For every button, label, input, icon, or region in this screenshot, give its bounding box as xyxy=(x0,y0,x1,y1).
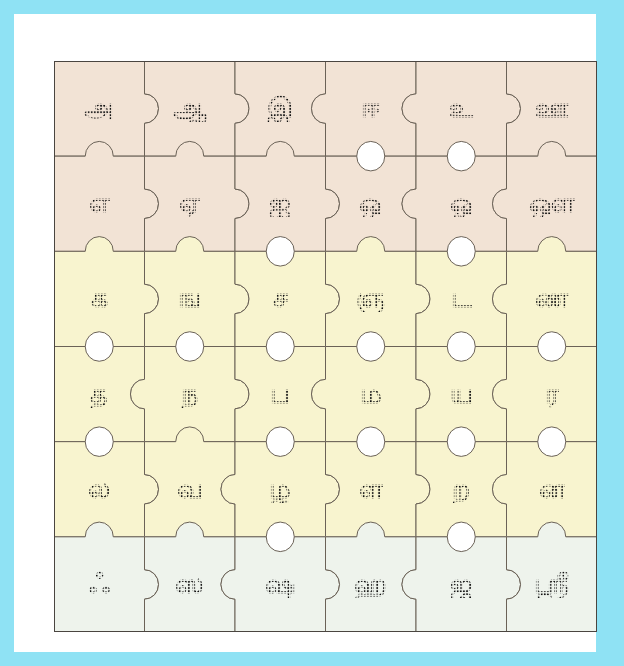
letter-glyph: த xyxy=(90,381,108,408)
letter-au: ஔ xyxy=(507,156,598,251)
letter-glyph: ஊ xyxy=(535,95,569,122)
letter-glyph: ம xyxy=(360,381,382,408)
letter-cha: ச xyxy=(235,251,326,346)
letter-rra: ற xyxy=(416,442,507,537)
letter-uu: ஊ xyxy=(507,61,598,156)
letter-ii: ஈ xyxy=(326,61,417,156)
letter-lla: ள xyxy=(326,442,417,537)
letter-ee: ஏ xyxy=(145,156,236,251)
letter-glyph: ல xyxy=(88,476,110,503)
letter-glyph: க xyxy=(91,285,108,312)
letter-e: எ xyxy=(54,156,145,251)
letter-a: அ xyxy=(54,61,145,156)
letter-glyph: ன xyxy=(539,476,565,503)
letter-sa: ஸ xyxy=(145,537,236,632)
letter-tha: த xyxy=(54,347,145,442)
letter-glyph: ஔ xyxy=(529,190,575,217)
letter-glyph: ண xyxy=(535,285,569,312)
letter-glyph: அ xyxy=(84,95,114,122)
letter-nha: ந xyxy=(145,347,236,442)
letter-u: உ xyxy=(416,61,507,156)
jigsaw-board[interactable]: அஆஇஈஉஊஎஏஐஒஓஔகஙசஞடணதநபமயரலவழளறனஃஸஷஹஜஶ்ரீ xyxy=(54,61,597,632)
letter-glyph: உ xyxy=(449,95,474,122)
letter-glyph: ப xyxy=(270,381,290,408)
letter-glyph: ஈ xyxy=(361,95,380,122)
letter-nga: ங xyxy=(145,251,236,346)
letter-glyph: ஹ xyxy=(354,571,387,598)
letter-sha: ஷ xyxy=(235,537,326,632)
letter-ai: ஐ xyxy=(235,156,326,251)
letter-nya: ஞ xyxy=(326,251,417,346)
letter-glyph: ழ xyxy=(269,476,291,503)
letter-glyph: ஸ xyxy=(175,571,204,598)
letter-glyph: ஷ xyxy=(265,571,295,598)
letter-glyph: இ xyxy=(267,95,293,122)
letter-glyph: எ xyxy=(89,190,110,217)
letter-glyph-layer: அஆஇஈஉஊஎஏஐஒஓஔகஙசஞடணதநபமயரலவழளறனஃஸஷஹஜஶ்ரீ xyxy=(54,61,597,632)
letter-ha: ஹ xyxy=(326,537,417,632)
letter-aytham: ஃ xyxy=(54,537,145,632)
page-mat: அஆஇஈஉஊஎஏஐஒஓஔகஙசஞடணதநபமயரலவழளறனஃஸஷஹஜஶ்ரீ xyxy=(14,14,596,652)
letter-glyph: ர xyxy=(545,381,559,408)
letter-pa: ப xyxy=(235,347,326,442)
letter-glyph: ச xyxy=(273,285,288,312)
letter-glyph: ள xyxy=(359,476,383,503)
letter-glyph: ஒ xyxy=(359,190,382,217)
letter-na-retroflex: ண xyxy=(507,251,598,346)
letter-ra: ர xyxy=(507,347,598,442)
letter-ya: ய xyxy=(416,347,507,442)
letter-o: ஒ xyxy=(326,156,417,251)
worksheet-page: அஆஇஈஉஊஎஏஐஒஓஔகஙசஞடணதநபமயரலவழளறனஃஸஷஹஜஶ்ரீ xyxy=(0,0,624,666)
letter-glyph: ஃ xyxy=(89,571,110,598)
letter-ta: ட xyxy=(416,251,507,346)
letter-ma: ம xyxy=(326,347,417,442)
letter-glyph: ஶ்ரீ xyxy=(534,571,569,598)
letter-glyph: ஐ xyxy=(269,190,291,217)
letter-nna: ன xyxy=(507,442,598,537)
letter-glyph: ட xyxy=(451,285,472,312)
letter-glyph: ய xyxy=(450,381,473,408)
letter-glyph: ஆ xyxy=(173,95,207,122)
letter-i: இ xyxy=(235,61,326,156)
letter-glyph: ஓ xyxy=(450,190,473,217)
letter-glyph: ஏ xyxy=(179,190,200,217)
letter-aa: ஆ xyxy=(145,61,236,156)
letter-va: வ xyxy=(145,442,236,537)
letter-glyph: ஜ xyxy=(450,571,473,598)
letter-shri: ஶ்ரீ xyxy=(507,537,598,632)
letter-glyph: ந xyxy=(181,381,198,408)
letter-ja: ஜ xyxy=(416,537,507,632)
letter-glyph: ஞ xyxy=(356,285,385,312)
letter-glyph: ற xyxy=(452,476,470,503)
letter-glyph: வ xyxy=(177,476,203,503)
letter-ka: க xyxy=(54,251,145,346)
letter-la: ல xyxy=(54,442,145,537)
letter-zha: ழ xyxy=(235,442,326,537)
letter-glyph: ங xyxy=(178,285,202,312)
letter-oo: ஓ xyxy=(416,156,507,251)
